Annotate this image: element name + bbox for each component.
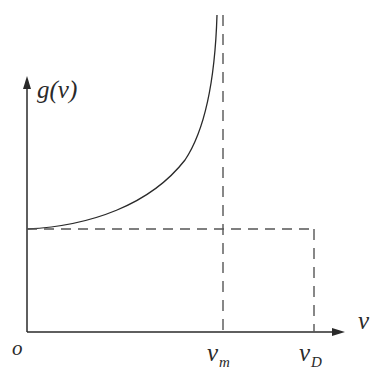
tick-label-vm: νm: [207, 340, 230, 365]
tick-label-vd: νD: [299, 340, 322, 365]
tick-vm-subscript: m: [219, 354, 230, 370]
x-axis-label: ν: [358, 308, 369, 333]
tick-vd-subscript: D: [311, 354, 322, 370]
origin-label: o: [12, 338, 23, 359]
tick-vm-base: ν: [207, 339, 218, 366]
tick-vd-base: ν: [299, 339, 310, 366]
g-curve: [27, 15, 217, 229]
x-axis-arrow-icon: [332, 328, 345, 336]
y-axis-label: g(ν): [37, 77, 77, 102]
density-of-states-diagram: g(ν) ν o νm νD: [0, 0, 391, 384]
diagram-graphic: [0, 0, 391, 384]
y-axis-arrow-icon: [23, 76, 31, 89]
